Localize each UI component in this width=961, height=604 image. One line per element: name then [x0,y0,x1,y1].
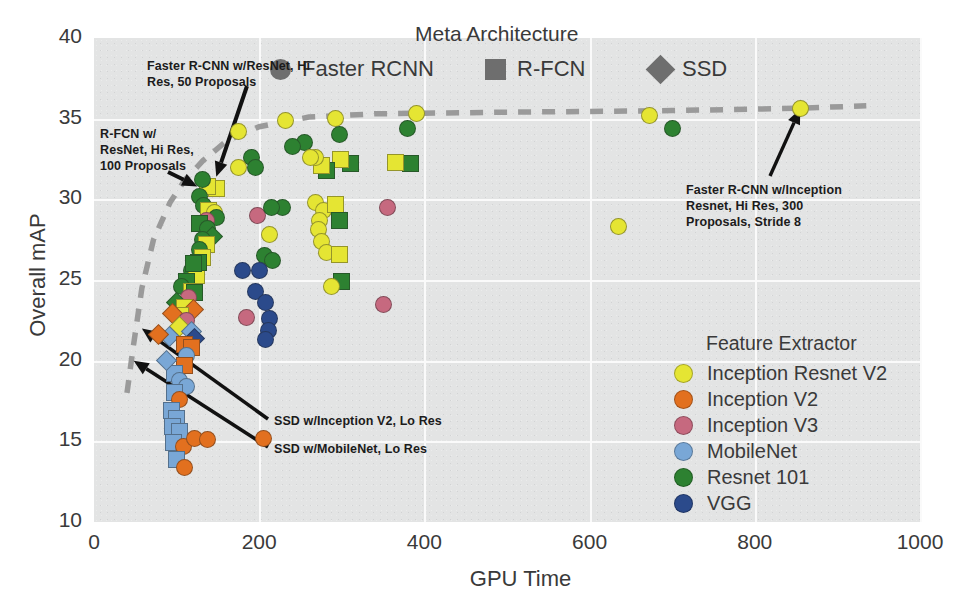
x-axis-label-text: GPU Time [470,566,571,591]
annotation-faster-rcnn-resnet-hires-50: Faster R-CNN w/ResNet, HiRes, 50 Proposa… [147,58,347,90]
feature-extractor-legend-label: Resnet 101 [707,466,809,489]
data-point [238,309,255,326]
data-point [379,199,396,216]
data-point [792,100,809,117]
feature-extractor-legend-label: Inception Resnet V2 [707,362,887,385]
annotation-ssd-inception-v2-lores: SSD w/Inception V2, Lo Res [274,413,514,429]
feature-extractor-legend: Feature Extractor Inception Resnet V2Inc… [660,332,930,516]
data-point [257,331,274,348]
data-point [277,112,294,129]
y-tick-label: 15 [22,427,82,451]
square-marker-icon [485,59,506,80]
feature-extractor-legend-item: MobileNet [660,438,930,464]
x-tick-label: 400 [384,530,464,554]
feature-extractor-legend-item: VGG [660,490,930,516]
data-point [176,459,193,476]
legend-color-swatch-icon [674,494,693,513]
y-axis-label: Overall mAP [25,175,51,375]
data-point [399,120,416,137]
data-point [263,199,280,216]
data-point [387,154,404,171]
data-point [610,218,627,235]
annotation-rfcn-resnet-hires-100: R-FCN w/ResNet, Hi Res,100 Proposals [100,126,230,174]
data-point [185,255,202,272]
x-axis-label: GPU Time [0,566,961,592]
meta-architecture-legend-label: R-FCN [517,56,585,82]
y-tick-label: 40 [22,24,82,48]
annotation-line: Faster R-CNN w/ResNet, Hi [147,58,347,74]
data-point [199,431,216,448]
x-tick-label: 0 [54,530,134,554]
data-point [375,296,392,313]
annotation-faster-rcnn-inception-resnet-hires-300: Faster R-CNN w/InceptionResnet, Hi Res, … [686,182,916,230]
feature-extractor-legend-label: Inception V2 [707,388,818,411]
data-point [331,126,348,143]
feature-extractor-legend-label: VGG [707,492,751,515]
data-point [323,278,340,295]
legend-color-swatch-icon [674,468,693,487]
data-point [230,123,247,140]
data-point [302,149,319,166]
data-point [257,294,274,311]
meta-architecture-legend-label: SSD [682,56,727,82]
gridline-horizontal [94,119,920,121]
meta-architecture-legend-title: Meta Architecture [415,22,578,46]
data-point [230,159,247,176]
annotation-ssd-mobilenet-lores: SSD w/MobileNet, Lo Res [274,441,514,457]
y-tick-label: 35 [22,105,82,129]
feature-extractor-legend-item: Inception V2 [660,386,930,412]
meta-architecture-legend: Meta Architecture Faster RCNNR-FCNSSD [270,22,790,92]
gridline-horizontal [94,280,920,282]
data-point [247,159,264,176]
feature-extractor-legend-item: Inception Resnet V2 [660,360,930,386]
annotation-line: Proposals, Stride 8 [686,214,916,230]
x-tick-label: 1000 [880,530,960,554]
feature-extractor-legend-title: Feature Extractor [706,332,930,355]
chart-root: 10152025303540 02004006008001000 Overall… [0,0,961,604]
legend-color-swatch-icon [674,416,693,435]
feature-extractor-legend-label: Inception V3 [707,414,818,437]
annotation-line: ResNet, Hi Res, [100,142,230,158]
data-point [664,120,681,137]
annotation-line: R-FCN w/ [100,126,230,142]
y-tick-label: 10 [22,508,82,532]
feature-extractor-legend-item: Inception V3 [660,412,930,438]
x-tick-label: 600 [550,530,630,554]
feature-extractor-legend-label: MobileNet [707,440,797,463]
data-point [255,430,272,447]
feature-extractor-legend-rows: Inception Resnet V2Inception V2Inception… [660,360,930,516]
data-point [284,138,301,155]
feature-extractor-legend-item: Resnet 101 [660,464,930,490]
meta-architecture-legend-item-square: R-FCN [485,56,585,82]
data-point [261,226,278,243]
data-point [327,196,344,213]
data-point [234,262,251,279]
data-point [331,246,348,263]
legend-color-swatch-icon [674,442,693,461]
diamond-marker-icon [646,54,676,84]
data-point [327,110,344,127]
data-point [402,155,419,172]
data-point [641,107,658,124]
meta-architecture-legend-item-diamond: SSD [650,56,727,82]
legend-color-swatch-icon [674,390,693,409]
annotation-line: Faster R-CNN w/Inception [686,182,916,198]
data-point [251,262,268,279]
annotation-line: SSD w/Inception V2, Lo Res [274,413,514,429]
data-point [331,212,348,229]
annotation-line: Res, 50 Proposals [147,74,347,90]
x-tick-label: 200 [219,530,299,554]
annotation-line: SSD w/MobileNet, Lo Res [274,441,514,457]
x-tick-label: 800 [715,530,795,554]
legend-color-swatch-icon [674,364,693,383]
annotation-line: Resnet, Hi Res, 300 [686,198,916,214]
annotation-line: 100 Proposals [100,158,230,174]
